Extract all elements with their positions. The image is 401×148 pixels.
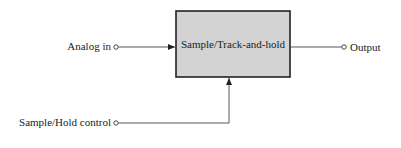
output-label: Output — [350, 41, 381, 53]
output-port: Output — [290, 41, 381, 53]
sample-hold-control-label: Sample/Hold control — [19, 116, 111, 128]
sample-hold-control-input: Sample/Hold control — [19, 78, 229, 128]
analog-in-input: Analog in — [67, 40, 175, 52]
output-terminal-icon — [342, 45, 346, 49]
control-terminal-icon — [114, 121, 118, 125]
analog-in-label: Analog in — [67, 40, 111, 52]
control-arrow — [119, 78, 230, 123]
block-label: Sample/Track-and-hold — [181, 38, 286, 50]
sample-track-and-hold-block: Sample/Track-and-hold — [176, 11, 290, 77]
block-diagram: Sample/Track-and-hold Analog in Output S… — [0, 0, 401, 148]
analog-in-terminal-icon — [114, 45, 118, 49]
